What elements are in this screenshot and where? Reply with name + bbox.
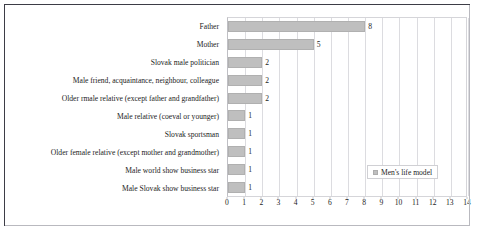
category-label: Father [200, 22, 219, 31]
axis-tick-label: 12 [429, 198, 437, 208]
axis-tick-label: 8 [362, 198, 366, 208]
axis-tick-label: 1 [242, 198, 246, 208]
axis-tick-label: 13 [446, 198, 454, 208]
chart-screenshot: FatherMotherSlovak male politicianMale f… [0, 0, 477, 233]
bar-value-label: 2 [265, 76, 269, 85]
bar-value-label: 5 [317, 40, 321, 49]
bar-value-label: 8 [368, 22, 372, 31]
gridline [468, 18, 469, 196]
bar [228, 164, 245, 175]
category-label-row: Mother [13, 35, 223, 53]
axis-tick-label: 5 [311, 198, 315, 208]
category-label: Mother [197, 40, 219, 49]
category-label: Slovak male politician [151, 58, 219, 67]
bar-row: 1 [228, 125, 466, 143]
bar [228, 39, 314, 50]
category-label: Older rmale relative (except father and … [62, 94, 219, 103]
category-label-row: Male Slovak show business star [13, 179, 223, 197]
axis-tick-label: 7 [345, 198, 349, 208]
category-label-row: Male relative (coeval or younger) [13, 107, 223, 125]
axis-tick-label: 11 [412, 198, 419, 208]
category-label: Male world show business star [125, 166, 219, 175]
category-label-row: Male friend, acquaintance, neighbour, co… [13, 71, 223, 89]
axis-tick-label: 10 [395, 198, 403, 208]
category-label-row: Slovak sportsman [13, 125, 223, 143]
bar-row: 5 [228, 36, 466, 54]
bar-value-label: 1 [248, 129, 252, 138]
axis-tick-label: 3 [277, 198, 281, 208]
bar-row: 2 [228, 89, 466, 107]
category-label-row: Slovak male politician [13, 53, 223, 71]
axis-tick-label: 4 [294, 198, 298, 208]
category-label-row: Male world show business star [13, 161, 223, 179]
legend-swatch-icon [373, 170, 378, 175]
value-axis: 01234567891011121314 [227, 198, 467, 212]
axis-tick-label: 9 [379, 198, 383, 208]
chart-legend: Men's life model [367, 165, 438, 179]
category-label: Slovak sportsman [165, 130, 219, 139]
category-label-row: Older female relative (except mother and… [13, 143, 223, 161]
bar-row: 1 [228, 107, 466, 125]
bar [228, 57, 262, 68]
bar-row: 2 [228, 54, 466, 72]
axis-tick-label: 14 [463, 198, 471, 208]
category-label: Male Slovak show business star [122, 184, 219, 193]
bar [228, 93, 262, 104]
bar-row: 8 [228, 18, 466, 36]
category-label: Older female relative (except mother and… [51, 148, 219, 157]
bar-row: 1 [228, 178, 466, 196]
bar-value-label: 1 [248, 111, 252, 120]
bar [228, 146, 245, 157]
category-label: Male friend, acquaintance, neighbour, co… [73, 76, 219, 85]
bar [228, 110, 245, 121]
bar [228, 21, 365, 32]
bar [228, 182, 245, 193]
bar-value-label: 1 [248, 165, 252, 174]
bar-value-label: 2 [265, 58, 269, 67]
category-label-row: Father [13, 17, 223, 35]
bar-value-label: 1 [248, 147, 252, 156]
category-axis-labels: FatherMotherSlovak male politicianMale f… [13, 17, 223, 197]
bar-row: 1 [228, 143, 466, 161]
axis-tick-label: 0 [225, 198, 229, 208]
bar-row: 2 [228, 71, 466, 89]
legend-label: Men's life model [381, 168, 432, 177]
bar-value-label: 1 [248, 183, 252, 192]
chart-outer-frame: FatherMotherSlovak male politicianMale f… [4, 4, 470, 226]
axis-tick-label: 2 [259, 198, 263, 208]
bar [228, 128, 245, 139]
category-label: Male relative (coeval or younger) [117, 112, 219, 121]
bar-value-label: 2 [265, 94, 269, 103]
category-label-row: Older rmale relative (except father and … [13, 89, 223, 107]
axis-tick-label: 6 [328, 198, 332, 208]
bar [228, 75, 262, 86]
